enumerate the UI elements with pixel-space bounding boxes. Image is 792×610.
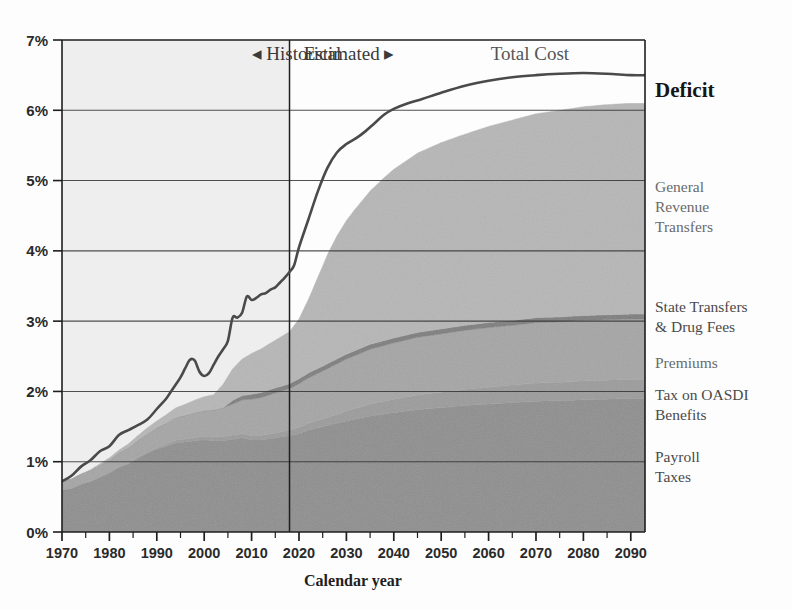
- legend-label-payroll-taxes: Taxes: [655, 468, 691, 485]
- legend-item-premiums: Premiums: [655, 354, 718, 371]
- y-tick-label-6: 6%: [26, 102, 48, 119]
- x-tick-label-2000: 2000: [188, 545, 220, 561]
- legend-label-general-revenue-transfers: Revenue: [655, 198, 709, 215]
- legend-item-deficit: Deficit: [655, 78, 714, 102]
- legend-label-tax-on-oasdi-benefits: Benefits: [655, 406, 707, 423]
- y-tick-label-1: 1%: [26, 453, 48, 470]
- legend-label-state-transfers-drug-fees: State Transfers: [655, 298, 748, 315]
- legend-label-deficit: Deficit: [655, 78, 714, 102]
- y-tick-label-5: 5%: [26, 172, 48, 189]
- y-tick-label-3: 3%: [26, 313, 48, 330]
- legend-label-payroll-taxes: Payroll: [655, 448, 700, 465]
- legend-label-tax-on-oasdi-benefits: Tax on OASDI: [655, 386, 749, 403]
- annotation-estimated: Estimated ▸: [304, 43, 395, 64]
- legend-label-premiums: Premiums: [655, 354, 718, 371]
- x-tick-label-1970: 1970: [46, 545, 78, 561]
- x-tick-label-2050: 2050: [425, 545, 457, 561]
- y-tick-label-2: 2%: [26, 383, 48, 400]
- annotation-total-cost: Total Cost: [491, 43, 570, 64]
- x-tick-label-2080: 2080: [567, 545, 599, 561]
- y-tick-label-0: 0%: [26, 524, 48, 541]
- legend-label-general-revenue-transfers: General: [655, 178, 704, 195]
- x-tick-label-1990: 1990: [141, 545, 173, 561]
- x-tick-label-2020: 2020: [283, 545, 315, 561]
- x-tick-label-2060: 2060: [472, 545, 504, 561]
- legend-label-state-transfers-drug-fees: & Drug Fees: [655, 318, 735, 335]
- chart-figure: 0%1%2%3%4%5%6%7% 19701980199020002010202…: [0, 0, 792, 610]
- x-tick-label-2070: 2070: [520, 545, 552, 561]
- x-tick-label-2090: 2090: [615, 545, 647, 561]
- x-tick-label-2030: 2030: [330, 545, 362, 561]
- x-tick-label-2010: 2010: [235, 545, 267, 561]
- x-tick-label-2040: 2040: [378, 545, 410, 561]
- y-tick-label-7: 7%: [26, 32, 48, 49]
- x-axis-title: Calendar year: [304, 572, 402, 590]
- x-tick-label-1980: 1980: [93, 545, 125, 561]
- medicare-cost-income-area-chart: 0%1%2%3%4%5%6%7% 19701980199020002010202…: [0, 0, 792, 610]
- legend-label-general-revenue-transfers: Transfers: [655, 218, 713, 235]
- y-tick-label-4: 4%: [26, 242, 48, 259]
